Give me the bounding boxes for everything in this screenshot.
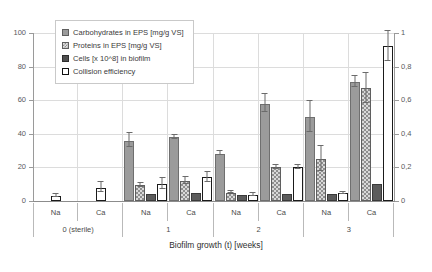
error-bar xyxy=(342,191,343,194)
error-bar xyxy=(162,177,163,189)
bar-carb xyxy=(260,104,270,201)
x-axis-category-label: Na xyxy=(123,203,168,221)
bar-prot xyxy=(226,193,236,201)
bar-prot xyxy=(316,159,326,201)
x-tick xyxy=(393,203,394,221)
error-bar xyxy=(354,75,355,87)
x-axis-category-label: Na xyxy=(304,203,349,221)
x-axis-group-labels: 0 (sterile)123 xyxy=(33,221,394,237)
bar-carb xyxy=(305,117,315,201)
x-axis-line xyxy=(33,201,395,202)
bar-coll xyxy=(202,177,212,201)
bar-carb xyxy=(169,137,179,201)
bar-coll xyxy=(51,196,61,201)
error-bar xyxy=(174,134,175,139)
bar-prot xyxy=(135,185,145,201)
error-bar xyxy=(387,30,388,60)
bar-coll xyxy=(293,167,303,201)
bar-cells xyxy=(372,184,382,201)
x-group-tick xyxy=(33,221,34,237)
y-axis-right-tick-label: 1 xyxy=(401,28,427,37)
y-axis-right-tick-label: 0,8 xyxy=(401,62,427,71)
y-axis-right-line xyxy=(394,33,395,202)
error-bar xyxy=(275,164,276,169)
x-axis-category-label: Na xyxy=(33,203,78,221)
legend-swatch-coll-icon xyxy=(62,68,69,75)
bar-group xyxy=(304,33,349,201)
legend-item: Collision efficiency xyxy=(62,65,184,78)
x-axis-category-label: Ca xyxy=(349,203,394,221)
error-bar xyxy=(230,190,231,193)
x-axis-group-label: 2 xyxy=(214,221,304,237)
bar-cells xyxy=(327,194,337,201)
x-axis-group-label: 3 xyxy=(304,221,394,237)
y-axis-left-tick-label: 20 xyxy=(2,162,26,171)
y-axis-right-tick-label: 0,4 xyxy=(401,129,427,138)
y-axis-right-tick-label: 0 xyxy=(401,196,427,205)
error-bar xyxy=(320,145,321,172)
y-axis-left-tick-mark xyxy=(29,201,33,202)
y-axis-right-tick-label: 0,6 xyxy=(401,95,427,104)
error-bar xyxy=(185,176,186,184)
bar-coll xyxy=(248,195,258,201)
x-axis-category-labels: NaCaNaCaNaCaNaCa xyxy=(33,203,394,221)
y-axis-left-tick-label: 80 xyxy=(2,62,26,71)
y-axis-left-tick-label: 0 xyxy=(2,196,26,205)
x-axis-category-label: Ca xyxy=(259,203,304,221)
bar-cells xyxy=(146,194,156,201)
error-bar xyxy=(100,181,101,193)
error-bar xyxy=(309,100,310,132)
y-axis-left-tick-label: 100 xyxy=(2,28,26,37)
error-bar xyxy=(264,93,265,111)
bar-carb xyxy=(215,154,225,201)
error-bar xyxy=(219,150,220,155)
x-axis-title: Biofilm growth (t) [weeks] xyxy=(0,240,432,250)
y-axis-right-tick-mark xyxy=(395,134,399,135)
x-axis-group-label: 1 xyxy=(123,221,213,237)
legend-label: Carbohydrates in EPS [mg/g VS] xyxy=(73,28,184,37)
error-bar xyxy=(55,193,56,197)
y-axis-right-tick-mark xyxy=(395,67,399,68)
error-bar xyxy=(365,72,366,102)
legend-item: Cells [x 10^8] in biofilm xyxy=(62,52,184,65)
x-axis-group-label: 0 (sterile) xyxy=(33,221,123,237)
chart-legend: Carbohydrates in EPS [mg/g VS]Proteins i… xyxy=(55,20,194,84)
y-axis-right-tick-mark xyxy=(395,201,399,202)
bar-coll xyxy=(157,184,167,201)
legend-swatch-cells-icon xyxy=(62,55,69,62)
error-bar xyxy=(207,171,208,181)
bar-group xyxy=(259,33,304,201)
bar-coll xyxy=(96,188,106,201)
error-bar xyxy=(252,192,253,195)
bar-carb xyxy=(350,82,360,201)
legend-swatch-carb-icon xyxy=(62,29,69,36)
x-axis-category-label: Na xyxy=(214,203,259,221)
error-bar xyxy=(297,164,298,169)
y-axis-left-tick-label: 40 xyxy=(2,129,26,138)
legend-label: Collision efficiency xyxy=(73,67,135,76)
y-axis-right-tick-label: 0,2 xyxy=(401,162,427,171)
x-tick xyxy=(33,203,34,221)
legend-item: Proteins in EPS [mg/g VS] xyxy=(62,39,184,52)
legend-swatch-prot-icon xyxy=(62,42,69,49)
bar-coll xyxy=(383,46,393,201)
bar-group xyxy=(214,33,259,201)
bar-carb xyxy=(124,141,134,201)
x-axis-category-label: Ca xyxy=(168,203,213,221)
x-group-tick xyxy=(393,221,394,237)
bar-prot xyxy=(361,88,371,201)
y-axis-left-tick-label: 60 xyxy=(2,95,26,104)
bar-prot xyxy=(271,167,281,201)
y-axis-right-tick-mark xyxy=(395,167,399,168)
x-axis-category-label: Ca xyxy=(78,203,123,221)
bar-cells xyxy=(191,193,201,201)
y-axis-right-tick-mark xyxy=(395,33,399,34)
y-axis-right-tick-mark xyxy=(395,100,399,101)
bar-cells xyxy=(282,194,292,201)
legend-label: Proteins in EPS [mg/g VS] xyxy=(73,41,162,50)
legend-item: Carbohydrates in EPS [mg/g VS] xyxy=(62,26,184,39)
error-bar xyxy=(129,132,130,147)
bar-coll xyxy=(338,193,348,201)
error-bar xyxy=(140,182,141,187)
bar-prot xyxy=(180,181,190,201)
